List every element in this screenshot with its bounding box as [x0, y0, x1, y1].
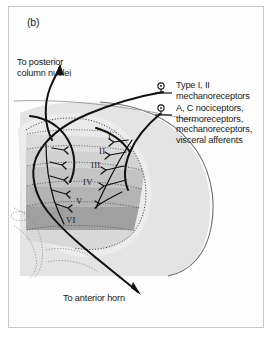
lamina-numeral-v: V	[76, 196, 83, 206]
spinal-cord-diagram	[0, 0, 273, 338]
label-type-1-2-mechanoreceptors: Type I, II mechanoreceptors	[176, 80, 250, 101]
label-nociceptors-thermoreceptors: A, C nociceptors, thermoreceptors, mecha…	[176, 103, 252, 145]
lamina-numeral-iii: III	[91, 160, 101, 170]
label-to-anterior-horn: To anterior horn	[63, 293, 125, 304]
lamina-numeral-vi: VI	[66, 215, 76, 225]
arrow-anterior-horn	[131, 282, 141, 295]
figure-panel-b: (b) To posterior column nuclei To anteri…	[0, 0, 273, 338]
panel-label: (b)	[27, 17, 39, 28]
lamina-numeral-ii: II	[99, 146, 105, 156]
lamina-band-6	[20, 206, 139, 230]
label-to-posterior-column-nuclei: To posterior column nuclei	[17, 57, 71, 78]
lamina-numeral-iv: IV	[83, 177, 93, 187]
lamina-numeral-i: I	[108, 131, 111, 141]
